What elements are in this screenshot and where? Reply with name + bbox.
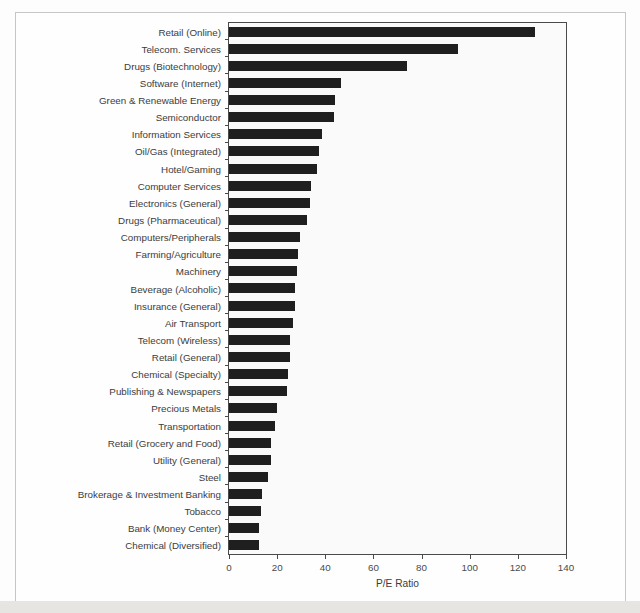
category-label: Insurance (General) [134,300,221,311]
y-tick [225,39,229,40]
category-label: Retail (Online) [158,26,221,37]
category-label: Drugs (Biotechnology) [124,60,221,71]
x-tick [518,555,519,559]
bar [229,181,311,191]
y-tick [225,228,229,229]
category-label: Brokerage & Investment Banking [78,489,221,500]
category-label: Computers/Peripherals [121,232,221,243]
y-tick [225,73,229,74]
bar-row [229,92,566,109]
y-tick [225,347,229,348]
bar [229,455,271,465]
category-label: Retail (General) [152,352,221,363]
category-label: Retail (Grocery and Food) [108,437,221,448]
bar-row [229,40,566,57]
bar [229,44,458,54]
bar-row [229,331,566,348]
plot-area [228,22,567,555]
bar [229,198,310,208]
bar-row [229,57,566,74]
y-tick [225,142,229,143]
x-tick-label: 100 [462,562,478,573]
x-tick-label: 80 [416,562,427,573]
bar-row [229,537,566,554]
category-label: Electronics (General) [129,197,221,208]
bar [229,506,261,516]
y-tick [225,210,229,211]
category-label: Telecom. Services [142,43,222,54]
bar-row [229,503,566,520]
y-tick [225,519,229,520]
x-tick [470,555,471,559]
bar [229,61,407,71]
category-label: Hotel/Gaming [161,163,221,174]
bar-row [229,297,566,314]
bar [229,95,335,105]
bar-row [229,263,566,280]
category-label: Machinery [176,266,221,277]
y-tick [225,467,229,468]
x-tick [373,555,374,559]
bar [229,369,288,379]
y-tick [225,484,229,485]
bar-row [229,280,566,297]
bar [229,283,295,293]
category-label: Transportation [158,420,221,431]
chart-card: Retail (Online)Telecom. ServicesDrugs (B… [15,12,626,603]
bar [229,403,277,413]
bar [229,146,319,156]
bar [229,112,334,122]
x-tick [277,555,278,559]
category-label: Steel [199,471,221,482]
y-tick [225,176,229,177]
y-tick [225,313,229,314]
bar-row [229,177,566,194]
bar-row [229,383,566,400]
y-tick [225,450,229,451]
category-label: Beverage (Alcoholic) [131,283,221,294]
x-tick-label: 0 [226,562,231,573]
category-label: Tobacco [185,506,222,517]
category-label: Air Transport [165,317,221,328]
bar [229,301,295,311]
category-label: Information Services [132,129,221,140]
category-label: Drugs (Pharmaceutical) [118,214,221,225]
x-axis-title: P/E Ratio [376,578,419,589]
bar-row [229,417,566,434]
bar [229,540,259,550]
bar-row [229,314,566,331]
category-label: Chemical (Specialty) [131,369,221,380]
category-label: Farming/Agriculture [136,249,221,260]
category-label: Oil/Gas (Integrated) [135,146,221,157]
category-label: Bank (Money Center) [128,523,221,534]
y-tick [225,365,229,366]
y-tick [225,502,229,503]
y-tick [225,193,229,194]
x-tick-label: 60 [368,562,379,573]
category-label: Chemical (Diversified) [125,540,221,551]
y-tick [225,330,229,331]
bar [229,215,307,225]
bar-row [229,160,566,177]
bar-row [229,348,566,365]
x-tick [422,555,423,559]
x-tick-label: 140 [558,562,574,573]
bar-row [229,211,566,228]
y-tick [225,382,229,383]
bar-row [229,451,566,468]
page-bottom-strip [0,601,640,613]
bar [229,232,300,242]
bar-row [229,468,566,485]
bar [229,472,268,482]
bar-row [229,194,566,211]
bar-row [229,434,566,451]
bar [229,523,259,533]
x-tick-label: 20 [272,562,283,573]
bar [229,421,275,431]
x-tick-label: 120 [510,562,526,573]
y-tick [225,159,229,160]
y-tick [225,296,229,297]
category-label: Semiconductor [156,112,221,123]
category-label: Computer Services [138,180,221,191]
bar [229,352,290,362]
